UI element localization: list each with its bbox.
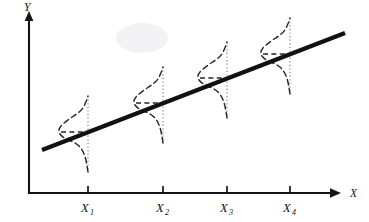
- tick-label-x2: X 2: [155, 201, 169, 217]
- tick-label-x2-base: X: [155, 201, 165, 215]
- tick-label-x1: X 1: [80, 201, 94, 217]
- y-axis-label: Y: [24, 1, 32, 13]
- tick-label-x3: X 3: [219, 201, 233, 217]
- tick-label-x3-subscript: 3: [228, 208, 233, 217]
- figure-canvas: Y X X 1 X 2 X 3 X 4: [0, 0, 369, 222]
- tick-label-x4: X 4: [282, 201, 296, 217]
- tick-label-x4-base: X: [282, 201, 292, 215]
- tick-label-x1-base: X: [80, 201, 90, 215]
- tick-label-x4-subscript: 4: [292, 208, 296, 217]
- tick-label-x2-subscript: 2: [165, 208, 169, 217]
- regression-distribution-figure: Y X X 1 X 2 X 3 X 4: [0, 0, 369, 222]
- y-axis: [25, 11, 34, 193]
- tick-label-x3-base: X: [219, 201, 229, 215]
- paper-smudge: [116, 23, 168, 53]
- regression-line: [42, 33, 345, 150]
- x-axis: [29, 188, 341, 197]
- tick-label-x1-subscript: 1: [90, 208, 94, 217]
- x-axis-arrowhead: [330, 188, 341, 197]
- x-axis-label: X: [349, 187, 358, 199]
